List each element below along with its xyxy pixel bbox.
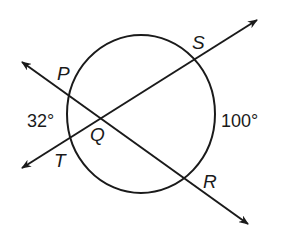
circle-secant-diagram: P S Q T R 32° 100° [0, 0, 286, 250]
point-label-T: T [54, 150, 67, 171]
arc-measure-PT: 32° [27, 111, 54, 131]
line-PR [22, 62, 248, 224]
point-label-R: R [203, 171, 217, 192]
arc-measure-SR: 100° [221, 111, 258, 131]
point-label-S: S [192, 32, 205, 53]
point-label-P: P [57, 63, 70, 84]
diagram-canvas: P S Q T R 32° 100° [0, 0, 286, 250]
point-label-Q: Q [90, 124, 105, 145]
circle [67, 35, 215, 193]
